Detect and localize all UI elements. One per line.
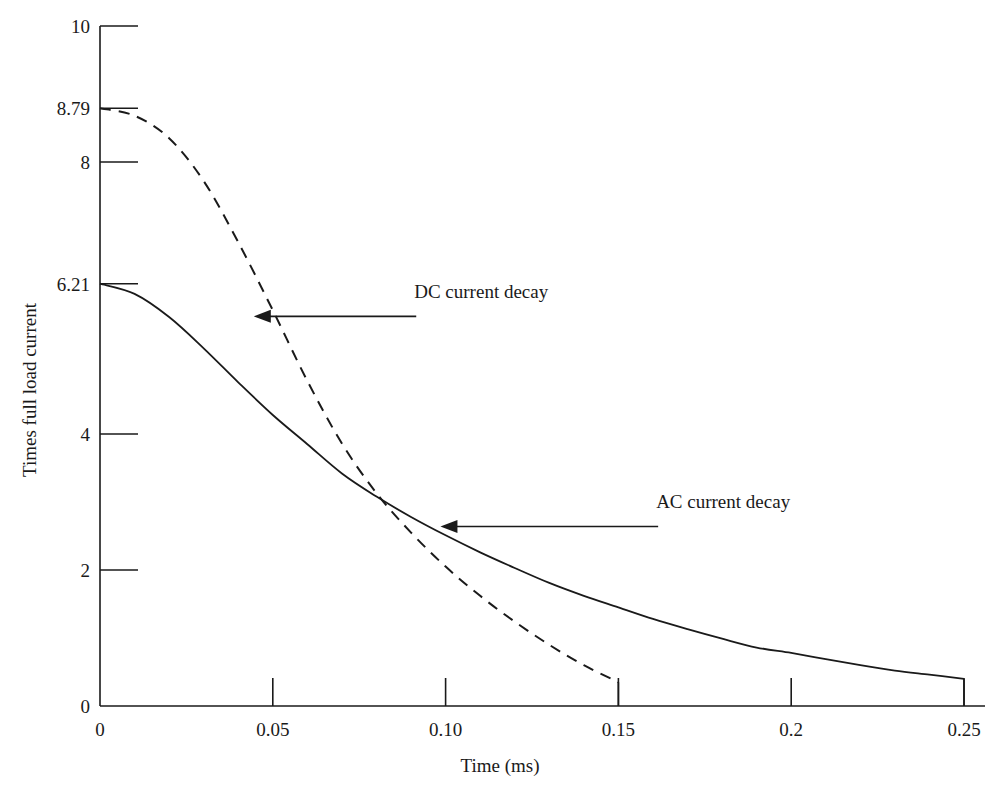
y-axis-title: Times full load current — [19, 302, 40, 477]
y-tick-label: 8.79 — [57, 98, 90, 119]
y-tick-label: 8 — [81, 152, 91, 173]
x-tick-label: 0.10 — [429, 719, 462, 740]
annotations-group: DC current decayAC current decay — [254, 281, 791, 533]
y-tick-label: 10 — [71, 16, 90, 37]
chart-figure: 0246.2188.7910 00.050.100.150.20.25 DC c… — [0, 0, 1001, 801]
y-tick-label: 2 — [81, 560, 91, 581]
chart-svg: 0246.2188.7910 00.050.100.150.20.25 DC c… — [0, 0, 1001, 801]
y-axis-ticks — [100, 26, 138, 570]
axes-group — [100, 26, 985, 706]
x-tick-label: 0 — [95, 719, 105, 740]
data-series-group — [100, 108, 964, 706]
annotation-arrow-head-2 — [440, 520, 457, 533]
x-tick-label: 0.25 — [947, 719, 980, 740]
annotation-arrow-head-1 — [254, 310, 271, 323]
x-axis-tick-labels: 00.050.100.150.20.25 — [95, 719, 980, 740]
x-tick-label: 0.05 — [256, 719, 289, 740]
series-line-1 — [100, 284, 964, 679]
y-tick-label: 0 — [81, 696, 91, 717]
series-line-2 — [100, 108, 618, 682]
y-tick-label: 6.21 — [57, 274, 90, 295]
y-axis-tick-labels: 0246.2188.7910 — [57, 16, 91, 717]
annotation-label-2: AC current decay — [656, 491, 790, 512]
annotation-label-1: DC current decay — [414, 281, 548, 302]
y-tick-label: 4 — [81, 424, 91, 445]
x-axis-title: Time (ms) — [460, 755, 539, 777]
x-tick-label: 0.2 — [779, 719, 803, 740]
x-tick-label: 0.15 — [602, 719, 635, 740]
